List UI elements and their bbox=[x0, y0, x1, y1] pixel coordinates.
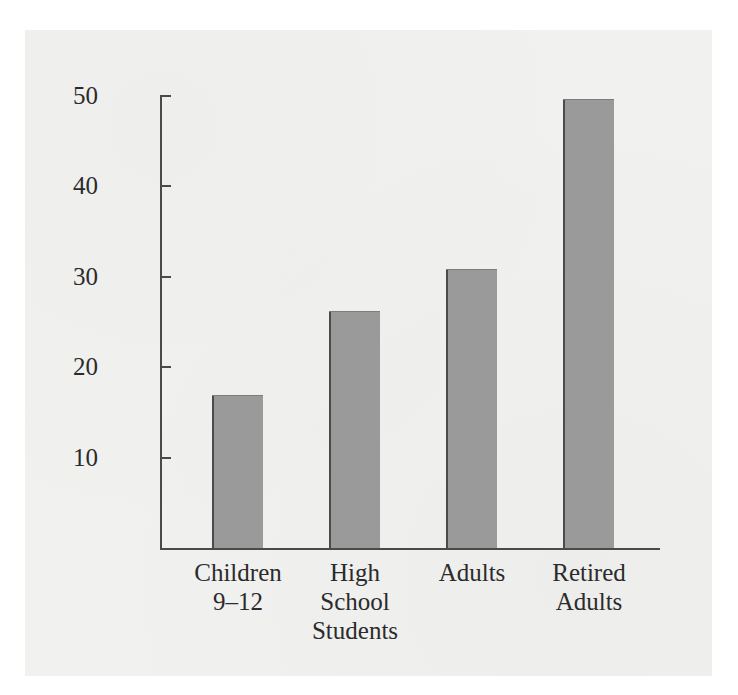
bar-children-9-12 bbox=[212, 396, 263, 548]
x-label-retired-adults-line-2: Adults bbox=[533, 587, 645, 616]
y-tick-label-50: 50 bbox=[46, 83, 98, 108]
y-tick-label-20: 20 bbox=[46, 354, 98, 379]
y-tick-50 bbox=[160, 95, 171, 97]
y-tick-label-40: 40 bbox=[46, 173, 98, 198]
y-tick-label-30: 30 bbox=[46, 264, 98, 289]
x-label-retired-adults-line-1: Retired bbox=[533, 558, 645, 587]
x-label-high-school-line-1: High bbox=[299, 558, 411, 587]
y-tick-label-10: 10 bbox=[46, 445, 98, 470]
y-axis-line bbox=[160, 95, 162, 550]
bar-adults bbox=[446, 270, 497, 548]
x-label-adults-line-1: Adults bbox=[416, 558, 528, 587]
bar-retired-adults bbox=[563, 100, 614, 548]
x-label-high-school: High School Students bbox=[299, 558, 411, 645]
y-tick-40 bbox=[160, 185, 171, 187]
x-label-children-line-2: 9–12 bbox=[182, 587, 294, 616]
x-label-high-school-line-3: Students bbox=[299, 616, 411, 645]
y-tick-30 bbox=[160, 276, 171, 278]
x-label-adults: Adults bbox=[416, 558, 528, 587]
x-label-children: Children 9–12 bbox=[182, 558, 294, 616]
bar-chart: Percentage of Day Spent Alone 50 40 30 2… bbox=[0, 0, 738, 695]
y-tick-10 bbox=[160, 457, 171, 459]
x-axis-line bbox=[160, 548, 660, 550]
y-tick-20 bbox=[160, 366, 171, 368]
x-label-high-school-line-2: School bbox=[299, 587, 411, 616]
bar-high-school-students bbox=[329, 312, 380, 548]
x-label-retired-adults: Retired Adults bbox=[533, 558, 645, 616]
x-label-children-line-1: Children bbox=[182, 558, 294, 587]
